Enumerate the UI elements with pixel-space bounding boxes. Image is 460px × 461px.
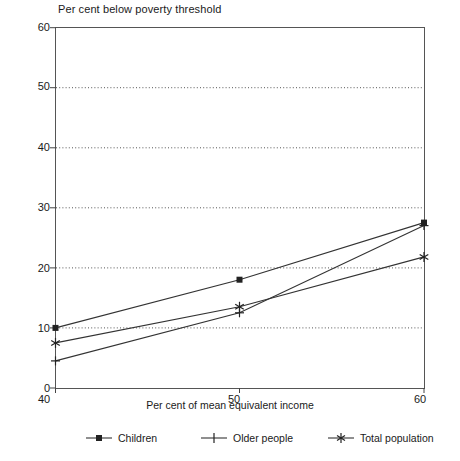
series-total-population-point-50 (235, 302, 244, 312)
series-older-people-point-60 (420, 221, 429, 230)
chart-plot-svg (0, 0, 460, 461)
series-children-point-40 (53, 325, 59, 331)
series-total-population (51, 252, 428, 348)
series-older-people-point-40 (51, 356, 60, 365)
legend-label-older-people: Older people (231, 432, 293, 444)
gridlines (56, 88, 424, 328)
series-older-people-line (56, 226, 425, 361)
legend-item-children[interactable]: Children (86, 432, 157, 444)
series-total-population-point-60 (420, 252, 429, 262)
series-total-population-line (56, 257, 425, 343)
legend-item-older-people[interactable]: Older people (201, 432, 293, 444)
plus-marker-icon (201, 432, 227, 444)
asterisk-marker-icon (328, 432, 354, 444)
series-total-population-point-40 (51, 338, 60, 348)
legend-item-total-population[interactable]: Total population (328, 432, 434, 444)
square-marker-icon (86, 432, 112, 444)
chart-legend: Children Older people Total population (0, 430, 460, 454)
poverty-threshold-chart: Per cent below poverty threshold 60 50 4… (0, 0, 460, 461)
legend-label-total-population: Total population (358, 432, 434, 444)
series-older-people (51, 221, 429, 365)
series-children-point-50 (237, 277, 243, 283)
y-axis-ticks (50, 28, 56, 388)
legend-label-children: Children (116, 432, 157, 444)
